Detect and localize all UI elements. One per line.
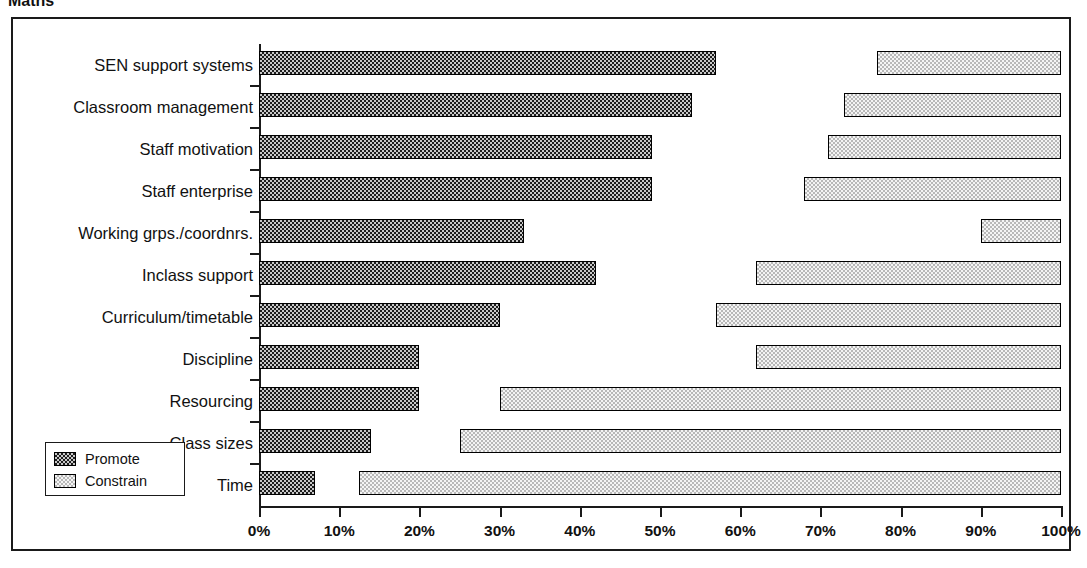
y-axis-label: Working grps./coordnrs. (13, 223, 253, 243)
x-axis-label: 60% (705, 522, 775, 540)
bar-constrain (359, 471, 1061, 495)
bar-promote (259, 471, 315, 495)
bar-row (259, 254, 1061, 296)
x-axis-tick (820, 506, 822, 517)
bar-row (259, 170, 1061, 212)
bar-row (259, 338, 1061, 380)
bar-row (259, 44, 1061, 86)
legend-item-constrain: Constrain (54, 471, 147, 491)
x-axis-tick (981, 506, 983, 517)
y-axis-tick (250, 253, 260, 255)
bar-promote (259, 177, 652, 201)
bar-row (259, 86, 1061, 128)
bar-promote (259, 345, 419, 369)
bar-promote (259, 219, 524, 243)
chart-legend: PromoteConstrain (45, 442, 185, 496)
legend-label: Promote (85, 451, 140, 467)
x-axis-label: 40% (545, 522, 615, 540)
bar-row (259, 380, 1061, 422)
bar-promote (259, 93, 692, 117)
y-axis-tick (250, 169, 260, 171)
x-axis-tick (660, 506, 662, 517)
bar-constrain (877, 51, 1061, 75)
y-axis-label: Classroom management (13, 97, 253, 117)
y-axis-category-labels: SEN support systemsClassroom managementS… (13, 44, 253, 506)
x-axis-label: 100% (1026, 522, 1087, 540)
bar-row (259, 212, 1061, 254)
x-axis-label: 80% (866, 522, 936, 540)
bar-promote (259, 51, 716, 75)
y-axis-label: Staff motivation (13, 139, 253, 159)
bar-constrain (460, 429, 1062, 453)
x-axis-tick (901, 506, 903, 517)
y-axis-label: Resourcing (13, 391, 253, 411)
x-axis-tick (339, 506, 341, 517)
x-axis-tick (259, 506, 261, 517)
y-axis-tick (250, 421, 260, 423)
bar-promote (259, 261, 596, 285)
legend-item-promote: Promote (54, 449, 140, 469)
y-axis-tick (250, 463, 260, 465)
x-axis-tick (500, 506, 502, 517)
x-axis-label: 90% (946, 522, 1016, 540)
x-axis-tick (1061, 506, 1063, 517)
x-axis-label: 70% (785, 522, 855, 540)
bar-promote (259, 303, 500, 327)
chart-frame: SEN support systemsClassroom managementS… (11, 17, 1071, 551)
bar-constrain (756, 345, 1061, 369)
bar-constrain (828, 135, 1061, 159)
bar-row (259, 422, 1061, 464)
y-axis-tick (250, 127, 260, 129)
x-axis-label: 50% (625, 522, 695, 540)
y-axis-label: Inclass support (13, 265, 253, 285)
x-axis-label: 30% (465, 522, 535, 540)
y-axis-label: SEN support systems (13, 55, 253, 75)
y-axis-tick (250, 379, 260, 381)
y-axis-tick (250, 85, 260, 87)
x-axis-tick (580, 506, 582, 517)
x-axis-label: 0% (224, 522, 294, 540)
y-axis-tick (250, 211, 260, 213)
y-axis-label: Curriculum/timetable (13, 307, 253, 327)
bar-promote (259, 429, 371, 453)
legend-label: Constrain (85, 473, 147, 489)
legend-swatch-icon (54, 474, 76, 488)
bar-constrain (844, 93, 1061, 117)
bar-row (259, 296, 1061, 338)
x-axis-tick (740, 506, 742, 517)
plot-area: 0%10%20%30%40%50%60%70%80%90%100% (259, 44, 1061, 506)
x-axis-label: 20% (384, 522, 454, 540)
chart-title: Maths (8, 0, 54, 9)
x-axis-label: 10% (304, 522, 374, 540)
bar-row (259, 128, 1061, 170)
y-axis-label: Staff enterprise (13, 181, 253, 201)
bar-constrain (716, 303, 1061, 327)
y-axis-label: Discipline (13, 349, 253, 369)
bar-constrain (981, 219, 1061, 243)
bar-row (259, 464, 1061, 506)
legend-swatch-icon (54, 452, 76, 466)
y-axis-tick (250, 337, 260, 339)
bar-promote (259, 135, 652, 159)
bar-promote (259, 387, 419, 411)
y-axis-tick (250, 295, 260, 297)
bar-constrain (500, 387, 1061, 411)
x-axis-tick (419, 506, 421, 517)
bar-constrain (804, 177, 1061, 201)
bar-constrain (756, 261, 1061, 285)
